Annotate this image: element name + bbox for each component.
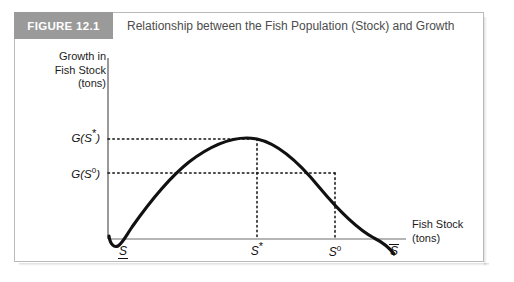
y-tick-label-g-s-star: G(S*)	[22, 132, 100, 144]
figure-header: FIGURE 12.1 Relationship between the Fis…	[14, 12, 484, 40]
x-axis-title-line2: (tons)	[412, 232, 463, 246]
x-tick-letter-s-star: S	[251, 244, 259, 258]
x-tick-label-s-zero: S0	[320, 244, 350, 259]
y-axis-title: Growth in Fish Stock (tons)	[20, 50, 106, 91]
growth-curve-path	[109, 138, 394, 254]
y-axis-title-line2: Fish Stock	[20, 64, 106, 78]
x-tick-sup-s-zero: 0	[337, 244, 341, 253]
chart-plot-area: Growth in Fish Stock (tons) Fish Stock (…	[14, 40, 484, 262]
frame-shadow	[19, 263, 489, 266]
y-tick-base-g-s-star: G(S	[71, 132, 91, 144]
y-tick-label-g-s-zero: G(S0)	[22, 166, 100, 180]
x-axis-title-line1: Fish Stock	[412, 218, 463, 232]
x-tick-label-s-lower: S	[108, 244, 138, 259]
figure-title: Relationship between the Fish Population…	[127, 12, 455, 39]
x-tick-label-s-star: S*	[242, 244, 272, 258]
frame-shadow-right	[484, 17, 487, 265]
y-axis-title-line1: Growth in	[20, 50, 106, 64]
x-axis-title: Fish Stock (tons)	[412, 218, 463, 245]
x-tick-letter-s-zero: S	[329, 245, 337, 259]
y-tick-close-g-s-zero: )	[96, 168, 100, 180]
figure-number-badge: FIGURE 12.1	[14, 12, 113, 39]
y-tick-base-g-s-zero: G(S	[71, 168, 91, 180]
x-tick-letter-s-lower: S	[118, 245, 127, 259]
y-tick-close-g-s-star: )	[96, 132, 100, 144]
y-axis-title-line3: (tons)	[20, 77, 106, 91]
x-tick-sup-s-star: *	[259, 240, 263, 252]
x-tick-label-s-upper: S	[379, 244, 409, 258]
x-tick-letter-s-upper: S	[389, 244, 398, 258]
figure-root: FIGURE 12.1 Relationship between the Fis…	[0, 0, 514, 282]
